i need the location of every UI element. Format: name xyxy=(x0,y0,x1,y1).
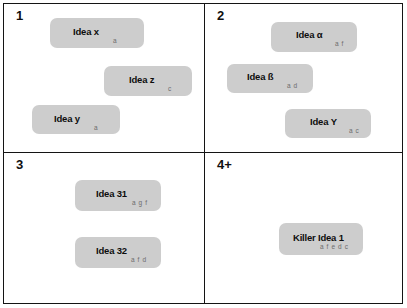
idea-card-tags: a xyxy=(113,37,117,45)
idea-card-tags: a c xyxy=(349,127,359,135)
idea-card-title: Idea x xyxy=(73,26,99,37)
quadrant-2-label: 2 xyxy=(217,8,224,23)
idea-card-title: Idea Υ xyxy=(310,116,337,127)
idea-card[interactable]: Idea y a xyxy=(32,105,120,134)
quadrant-1-label: 1 xyxy=(16,8,23,23)
idea-card-tags: a f e d c xyxy=(320,243,349,251)
quadrant-3-label: 3 xyxy=(16,157,23,172)
idea-card-title: Idea α xyxy=(296,29,322,40)
idea-card[interactable]: Idea 31 a g f xyxy=(75,180,161,211)
idea-card-title: Idea ß xyxy=(247,71,273,82)
idea-card[interactable]: Idea x a xyxy=(50,18,144,48)
quadrant-2: 2 Idea α a f Idea ß a d Idea Υ a c xyxy=(205,4,403,152)
idea-card-tags: a xyxy=(94,124,98,132)
idea-card[interactable]: Idea Υ a c xyxy=(285,109,371,138)
quadrant-3: 3 Idea 31 a g f Idea 32 a f d xyxy=(4,153,204,303)
diagram-canvas: 1 Idea x a Idea z c Idea y a 2 Idea α a … xyxy=(0,0,407,308)
idea-card-title: Idea 32 xyxy=(96,245,127,256)
quadrant-1: 1 Idea x a Idea z c Idea y a xyxy=(4,4,204,152)
idea-card-title: Idea y xyxy=(54,113,80,124)
idea-card-tags: c xyxy=(168,85,172,93)
idea-card-tags: a g f xyxy=(132,199,148,207)
quadrant-4: 4+ Killer Idea 1 a f e d c xyxy=(205,153,403,303)
idea-card-title: Idea z xyxy=(129,74,154,85)
idea-card-tags: a f d xyxy=(131,256,147,264)
idea-card[interactable]: Idea α a f xyxy=(271,22,357,52)
idea-card[interactable]: Idea ß a d xyxy=(227,64,313,93)
idea-card[interactable]: Idea 32 a f d xyxy=(75,237,161,268)
quadrant-4-label: 4+ xyxy=(217,157,232,172)
idea-card-tags: a d xyxy=(287,82,298,90)
idea-card[interactable]: Killer Idea 1 a f e d c xyxy=(279,223,363,255)
idea-card-tags: a f xyxy=(335,40,344,48)
idea-card-title: Idea 31 xyxy=(96,188,127,199)
idea-card[interactable]: Idea z c xyxy=(104,66,192,96)
idea-card-title: Killer Idea 1 xyxy=(293,232,344,243)
